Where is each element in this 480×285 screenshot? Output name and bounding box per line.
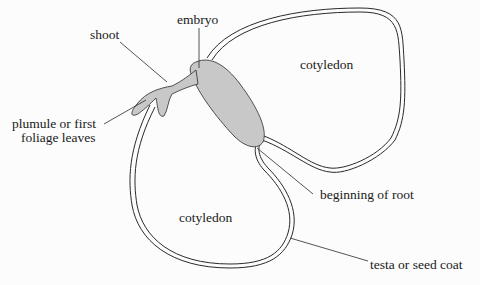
label-plumule-line2: foliage leaves: [21, 130, 96, 145]
shoot-leader: [120, 42, 167, 82]
label-embryo: embryo: [177, 12, 218, 27]
label-plumule-line1: plumule or first: [12, 116, 96, 131]
label-cotyledon-lower: cotyledon: [179, 210, 232, 225]
embryo-shape: [132, 60, 264, 147]
label-beginning-of-root: beginning of root: [320, 187, 414, 202]
label-cotyledon-upper: cotyledon: [300, 57, 353, 72]
label-shoot: shoot: [90, 27, 119, 42]
label-testa: testa or seed coat: [370, 257, 463, 272]
seed-diagram: embryo shoot plumule or first foliage le…: [0, 0, 480, 285]
lower-cotyledon-outline: [130, 105, 294, 268]
testa-leader: [290, 238, 368, 261]
